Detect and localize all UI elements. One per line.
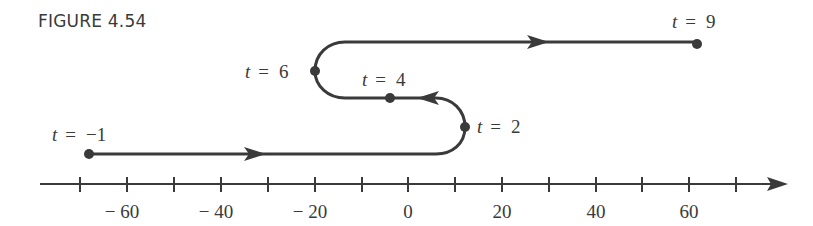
label-t-2: t=2 <box>477 116 521 137</box>
point-t-neg1-dot <box>84 149 94 159</box>
tick-label: − 60 <box>105 201 139 222</box>
tick-label: 60 <box>680 201 699 222</box>
point-t-4-dot <box>385 93 395 103</box>
axis-tick-labels: − 60 − 40 − 20 0 20 40 60 <box>105 201 699 222</box>
figure-4-54: FIGURE 4.54 <box>0 0 813 226</box>
label-t-4: t=4 <box>362 69 406 90</box>
label-t-9: t=9 <box>672 11 716 32</box>
point-t-6-dot <box>310 66 320 76</box>
tick-label: 20 <box>493 201 512 222</box>
point-t-2-dot <box>460 122 470 132</box>
tick-label: − 20 <box>293 201 327 222</box>
tick-label: − 40 <box>199 201 233 222</box>
number-line <box>40 177 775 192</box>
tick-label: 0 <box>403 201 413 222</box>
tick-label: 40 <box>587 201 606 222</box>
motion-diagram: − 60 − 40 − 20 0 20 40 60 t=−1 t=2 t=4 t… <box>0 0 813 226</box>
figure-caption: FIGURE 4.54 <box>38 11 146 31</box>
label-t-neg1: t=−1 <box>52 124 106 145</box>
label-t-6: t=6 <box>245 61 289 82</box>
point-t-9-dot <box>692 39 702 49</box>
